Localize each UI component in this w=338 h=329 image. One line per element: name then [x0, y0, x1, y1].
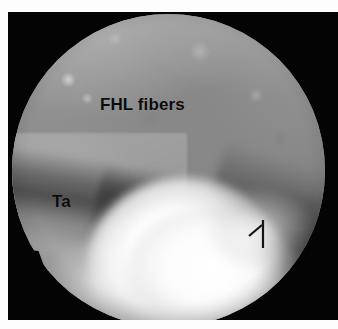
- field-vignette: [12, 14, 325, 320]
- arthroscopy-figure: FHL fibers Ta: [0, 0, 338, 329]
- arrow-marker-icon: [246, 218, 272, 250]
- label-fhl-fibers: FHL fibers: [100, 96, 185, 113]
- endoscope-field-of-view: [12, 14, 325, 320]
- photo-frame: FHL fibers Ta: [8, 12, 338, 320]
- label-talus: Ta: [52, 193, 71, 210]
